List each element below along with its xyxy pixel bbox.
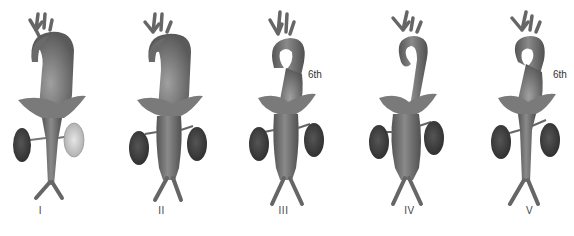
type-label: III <box>226 205 341 216</box>
type-label: I <box>0 205 98 216</box>
figure-type-5: 6th V <box>460 0 574 236</box>
aorta-illustration-type-2 <box>115 0 230 236</box>
aorta-illustration-type-1 <box>0 0 115 236</box>
figure-type-4: IV <box>345 0 460 236</box>
type-label: V <box>472 205 574 216</box>
aorta-illustration-type-4 <box>345 0 460 236</box>
aorta-illustration-type-5 <box>460 0 574 236</box>
figure-type-3: 6th III <box>230 0 345 236</box>
type-label: II <box>104 205 219 216</box>
figure-type-2: II <box>115 0 230 236</box>
sixth-annotation: 6th <box>308 69 322 80</box>
figure-type-1: I <box>0 0 115 236</box>
type-label: IV <box>352 205 467 216</box>
aorta-illustration-type-3 <box>230 0 345 236</box>
sixth-annotation: 6th <box>553 69 567 80</box>
